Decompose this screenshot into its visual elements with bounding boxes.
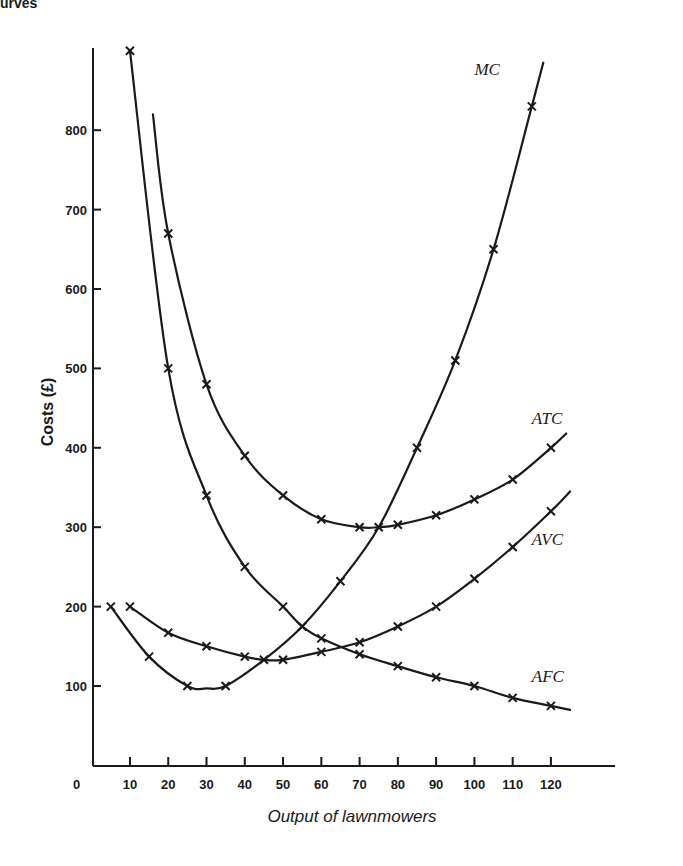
x-tick-label: 20 bbox=[161, 777, 175, 792]
x-marker-icon bbox=[509, 543, 517, 551]
x-marker-icon bbox=[394, 622, 402, 630]
x-marker-icon bbox=[222, 682, 230, 690]
x-tick-label: 60 bbox=[314, 777, 328, 792]
x-tick-label: 80 bbox=[391, 777, 405, 792]
x-tick-label: 90 bbox=[429, 777, 443, 792]
avc-label: AVC bbox=[531, 530, 564, 549]
x-marker-icon bbox=[241, 452, 249, 460]
x-marker-icon bbox=[317, 634, 325, 642]
x-marker-icon bbox=[183, 682, 191, 690]
x-tick-label: 70 bbox=[352, 777, 366, 792]
x-marker-icon bbox=[470, 575, 478, 583]
x-tick-label: 40 bbox=[238, 777, 252, 792]
y-tick-label: 200 bbox=[65, 600, 87, 615]
atc-series: ATC bbox=[153, 114, 566, 531]
x-marker-icon bbox=[126, 603, 134, 611]
x-marker-icon bbox=[107, 603, 115, 611]
mc-curve bbox=[111, 63, 543, 689]
y-tick-label: 700 bbox=[65, 203, 87, 218]
mc-label: MC bbox=[473, 60, 500, 79]
axes bbox=[93, 48, 615, 766]
origin-label: 0 bbox=[73, 777, 80, 792]
y-axis-ticks: 100200300400500600700800 bbox=[65, 123, 101, 694]
x-tick-label: 30 bbox=[199, 777, 213, 792]
atc-curve bbox=[153, 114, 566, 528]
x-marker-icon bbox=[432, 603, 440, 611]
x-marker-icon bbox=[470, 495, 478, 503]
x-axis-title: Output of lawnmowers bbox=[267, 807, 437, 826]
atc-label: ATC bbox=[531, 409, 563, 428]
cost-curves-chart: urves 102030405060708090100110120 100200… bbox=[0, 0, 683, 866]
x-tick-label: 110 bbox=[502, 777, 523, 792]
cost-curves: MCATCAVCAFC bbox=[107, 47, 570, 710]
afc-curve bbox=[130, 51, 570, 710]
y-axis-title: Costs (£) bbox=[39, 378, 56, 446]
x-marker-icon bbox=[547, 444, 555, 452]
cropped-header-text: urves bbox=[0, 0, 38, 11]
mc-series: MC bbox=[107, 60, 543, 690]
y-tick-label: 600 bbox=[65, 282, 87, 297]
x-axis-ticks: 102030405060708090100110120 bbox=[123, 757, 562, 792]
x-marker-icon bbox=[241, 563, 249, 571]
afc-series: AFC bbox=[126, 47, 570, 710]
y-tick-label: 400 bbox=[65, 441, 87, 456]
x-tick-label: 10 bbox=[123, 777, 137, 792]
x-marker-icon bbox=[547, 507, 555, 515]
x-tick-label: 100 bbox=[464, 777, 486, 792]
x-tick-label: 120 bbox=[540, 777, 562, 792]
avc-series: AVC bbox=[126, 491, 570, 663]
y-tick-label: 800 bbox=[65, 123, 87, 138]
avc-curve bbox=[130, 491, 570, 660]
y-tick-label: 500 bbox=[65, 361, 87, 376]
x-marker-icon bbox=[145, 653, 153, 661]
x-marker-icon bbox=[413, 444, 421, 452]
x-marker-icon bbox=[279, 491, 287, 499]
x-marker-icon bbox=[509, 476, 517, 484]
x-marker-icon bbox=[164, 629, 172, 637]
x-marker-icon bbox=[279, 603, 287, 611]
y-tick-label: 300 bbox=[65, 520, 87, 535]
x-marker-icon bbox=[336, 577, 344, 585]
afc-label: AFC bbox=[531, 667, 565, 686]
y-tick-label: 100 bbox=[65, 679, 87, 694]
x-tick-label: 50 bbox=[276, 777, 290, 792]
